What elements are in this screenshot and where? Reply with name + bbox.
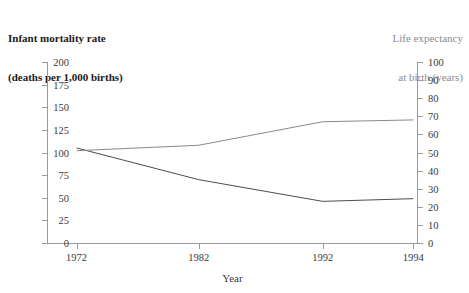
- right-axis-ticklabel: 60: [428, 129, 439, 140]
- x-axis-ticklabel: 1992: [312, 252, 333, 263]
- x-axis-tick: [413, 244, 414, 249]
- right-axis-ticklabel: 50: [428, 147, 439, 158]
- x-axis-tick: [77, 244, 78, 249]
- right-axis-title-line-1: Life expectancy: [392, 32, 463, 45]
- right-axis-ticklabels: 0102030405060708090100: [428, 62, 462, 244]
- x-axis-ticklabel: 1982: [188, 252, 209, 263]
- infant-mortality-line: [77, 148, 414, 201]
- x-axis-label: Year: [47, 272, 418, 284]
- right-axis-ticklabel: 0: [428, 238, 433, 249]
- right-axis-tick: [418, 243, 423, 244]
- plot-area: 0255075100125150175200 01020304050607080…: [47, 62, 417, 243]
- chart-figure: Infant mortality rate (deaths per 1,000 …: [0, 0, 469, 293]
- right-axis-tick: [418, 62, 423, 63]
- right-axis-ticklabel: 80: [428, 93, 439, 104]
- right-axis-ticklabel: 40: [428, 165, 439, 176]
- right-axis-tick: [418, 171, 423, 172]
- right-axis-ticklabel: 20: [428, 201, 439, 212]
- right-axis-ticklabel: 10: [428, 219, 439, 230]
- right-axis-tick: [418, 189, 423, 190]
- x-axis-ticklabel: 1994: [403, 252, 424, 263]
- right-axis-tick: [418, 98, 423, 99]
- series-lines: [47, 62, 418, 244]
- x-axis-tick: [323, 244, 324, 249]
- x-axis-tick: [199, 244, 200, 249]
- right-axis-tick: [418, 207, 423, 208]
- right-axis-tick: [418, 134, 423, 135]
- right-axis-ticklabel: 70: [428, 111, 439, 122]
- right-axis-ticklabel: 30: [428, 183, 439, 194]
- right-axis-tick: [418, 225, 423, 226]
- right-axis-ticklabel: 90: [428, 75, 439, 86]
- right-axis-tick: [418, 80, 423, 81]
- right-axis-tick: [418, 116, 423, 117]
- x-axis-ticklabel: 1972: [66, 252, 87, 263]
- right-axis-tick: [418, 153, 423, 154]
- right-axis-ticklabel: 100: [428, 57, 444, 68]
- left-axis-title-line-1: Infant mortality rate: [8, 32, 123, 45]
- life-expectancy-line: [77, 120, 414, 151]
